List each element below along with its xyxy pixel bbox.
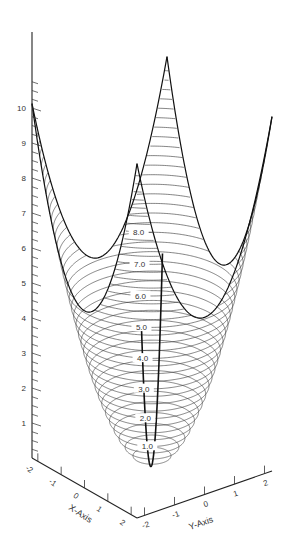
y-axis-label: Y-Axis [187,514,215,532]
z-tick-label: 8 [22,174,27,183]
z-tick [32,178,41,181]
z-tick-label: 3 [22,349,27,358]
z-tick [32,231,38,233]
contour-line [71,271,232,343]
contour-line [154,127,177,128]
surface-plot: 12345678910 -2-1012 -2-1012 X-Axis Y-Axi… [0,0,296,554]
z-tick [32,239,38,241]
contour-line [137,194,190,197]
z-tick [32,406,38,408]
contour-line [145,165,184,167]
z-tick [32,187,38,189]
y-tick-label: -1 [171,509,181,520]
z-tick [32,248,41,251]
z-tick [32,414,38,416]
z-tick [32,388,41,391]
z-tick [32,161,38,163]
contour-line [129,215,148,216]
z-tick [32,152,38,154]
z-tick [32,266,38,268]
x-tick-label: -2 [24,464,35,476]
z-tick [32,196,38,198]
surface-edge [167,57,272,265]
z-tick [32,344,38,346]
z-tick [32,336,38,338]
z-tick [32,432,38,434]
z-tick [32,283,41,286]
z-tick [32,292,38,294]
contour-label: 8.0 [133,228,145,237]
z-tick-label: 5 [22,279,27,288]
z-tick [32,397,38,399]
z-tick-label: 9 [22,139,27,148]
x-axis-label: X-Axis [67,502,95,525]
contour-line [63,249,79,286]
contour-label: 3.0 [138,385,150,394]
z-tick [32,213,41,216]
x-tick-label: 1 [95,504,104,514]
contour-label: 5.0 [136,323,148,332]
z-tick [32,82,38,84]
contour-line [160,99,172,100]
contour-line [67,252,237,328]
z-tick [32,169,38,171]
z-tick [32,353,41,356]
contour-line [120,254,159,256]
z-tick-label: 2 [22,384,27,393]
z-tick-label: 6 [22,244,27,253]
z-tick [32,379,38,381]
contour-line [45,173,48,185]
contour-line [156,118,175,119]
contour-line [46,181,50,194]
z-tick [32,204,38,206]
contour-labels: 1.02.03.04.05.06.07.08.0 [129,227,158,451]
surface-plot-figure: 12345678910 -2-1012 -2-1012 X-Axis Y-Axi… [0,0,296,554]
contour-line [124,239,153,241]
contour-line [41,157,43,166]
z-tick [32,362,38,364]
y-tick-label: 1 [232,489,240,499]
contour-line [76,291,228,359]
contour-label: 6.0 [135,292,147,301]
contour-label: 1.0 [142,442,154,451]
z-axis-ticks: 12345678910 [17,82,41,452]
contour-line [113,242,210,251]
contour-line [142,175,187,178]
contour-line [65,255,86,298]
z-tick [32,318,41,321]
z-tick [32,423,41,426]
y-tick-label: 0 [202,499,210,509]
surface-edge [32,104,137,312]
z-tick [32,327,38,329]
z-tick [32,371,38,373]
contour-line [43,165,46,175]
contour-line [158,108,174,109]
z-tick [32,441,38,443]
z-tick [32,309,38,311]
z-tick [32,274,38,276]
contour-line [130,213,196,218]
z-tick-label: 1 [22,419,27,428]
z-tick [32,99,38,101]
contour-line [150,146,179,148]
z-tick [32,222,38,224]
z-tick [32,91,38,93]
contour-line [138,184,189,187]
contour-line [152,137,178,138]
z-tick-label: 4 [22,314,27,323]
contour-label: 4.0 [137,354,149,363]
z-tick [32,301,38,303]
contour-line [50,197,55,214]
z-tick [32,257,38,259]
contour-line [130,207,146,208]
contour-line [147,156,183,158]
y-tick-label: 2 [262,478,270,488]
contour-line [55,220,63,244]
z-tick [32,143,41,146]
z-tick-label: 7 [22,209,27,218]
contour-line [132,203,193,207]
contour-line [114,277,167,280]
contour-line [115,269,166,272]
paraboloid-surface [32,57,272,467]
z-tick [32,449,38,451]
